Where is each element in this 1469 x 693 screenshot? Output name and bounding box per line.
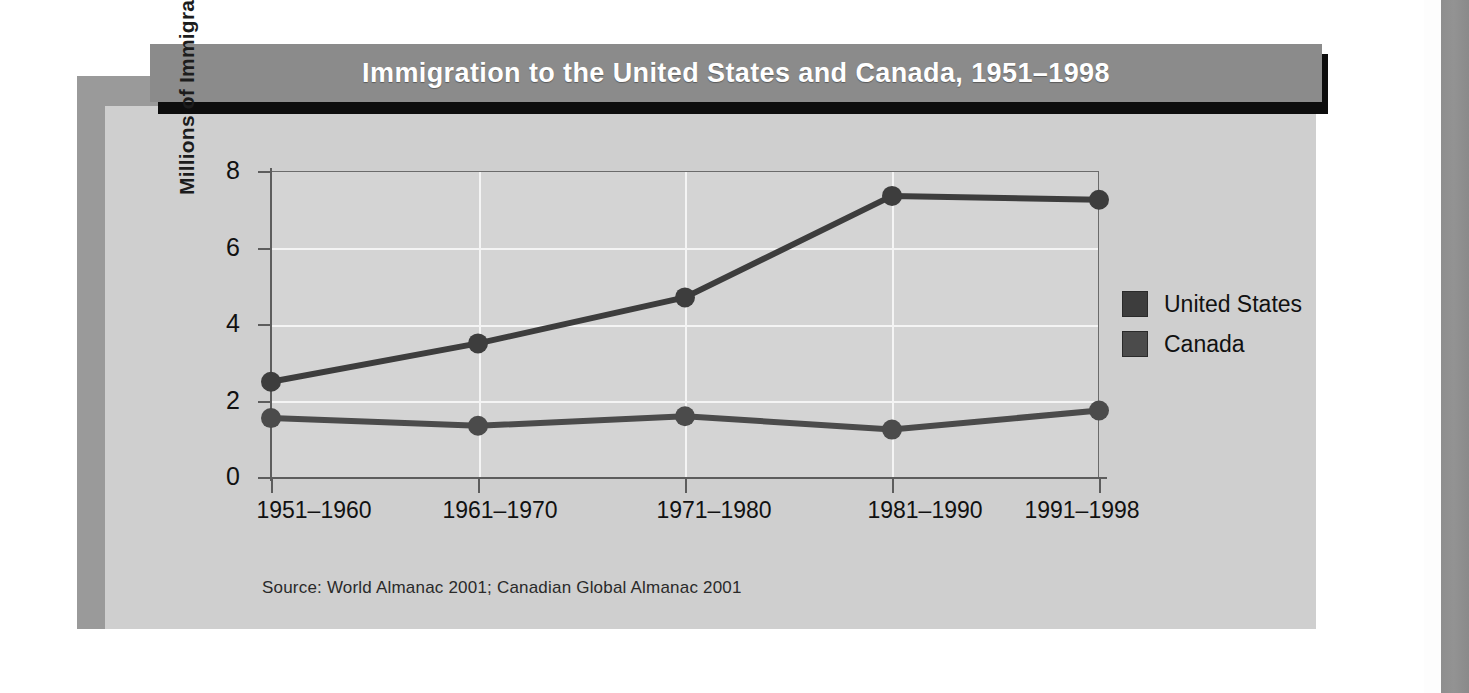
legend-swatch-canada: [1122, 331, 1148, 357]
figure-card: [105, 106, 1316, 629]
figure-title-bar: Immigration to the United States and Can…: [150, 44, 1322, 102]
source-note: Source: World Almanac 2001; Canadian Glo…: [262, 578, 742, 598]
legend-swatch-united-states: [1122, 291, 1148, 317]
page-edge-gap: [1424, 0, 1441, 693]
legend-label-canada: Canada: [1164, 331, 1245, 358]
legend-item-canada: Canada: [1122, 324, 1302, 364]
page-edge-strip: [1441, 0, 1469, 693]
legend-label-united-states: United States: [1164, 291, 1302, 318]
figure-title: Immigration to the United States and Can…: [362, 58, 1110, 89]
legend-item-united-states: United States: [1122, 284, 1302, 324]
legend: United States Canada: [1122, 284, 1302, 364]
